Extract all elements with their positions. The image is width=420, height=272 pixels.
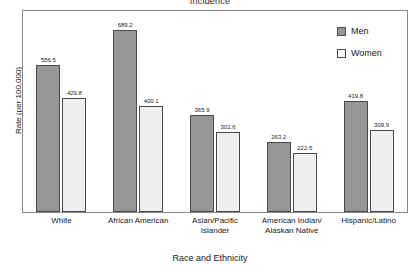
- bar-value-label: 429.8: [53, 90, 95, 96]
- bar-rect: [216, 132, 240, 212]
- bar-men[interactable]: 689.2: [113, 30, 137, 212]
- x-axis-tick-labels: WhiteAfrican AmericanAsian/PacificIsland…: [23, 216, 407, 250]
- bar-rect: [267, 142, 291, 212]
- legend-item-women[interactable]: Women: [337, 48, 382, 58]
- bar-rect: [62, 98, 86, 212]
- bar-men[interactable]: 419.8: [344, 101, 368, 212]
- x-axis-title: Race and Ethnicity: [0, 253, 420, 263]
- bar-women[interactable]: 222.5: [293, 153, 317, 212]
- incidence-bar-chart: Incidence Rate (per 100,000) 556.5429.86…: [0, 0, 420, 272]
- legend-label-women: Women: [351, 48, 382, 58]
- x-tick-label: Asian/PacificIslander: [177, 216, 254, 236]
- legend-label-men: Men: [351, 26, 369, 36]
- bar-women[interactable]: 429.8: [62, 98, 86, 212]
- chart-legend: Men Women: [337, 26, 382, 70]
- x-tick-label: White: [23, 216, 100, 226]
- bar-men[interactable]: 556.5: [36, 65, 60, 212]
- x-tick-label: African American: [100, 216, 177, 226]
- bar-women[interactable]: 400.1: [139, 106, 163, 212]
- bar-rect: [113, 30, 137, 212]
- bar-value-label: 309.9: [361, 122, 403, 128]
- bar-value-label: 556.5: [27, 57, 69, 63]
- bar-women[interactable]: 309.9: [370, 130, 394, 212]
- bar-value-label: 689.2: [104, 22, 146, 28]
- bar-value-label: 302.6: [207, 124, 249, 130]
- bar-rect: [344, 101, 368, 212]
- chart-title: Incidence: [0, 0, 420, 6]
- men-swatch-icon: [337, 27, 346, 36]
- bar-group: 556.5429.8: [23, 11, 100, 212]
- women-swatch-icon: [337, 49, 346, 58]
- x-tick-label: Hispanic/Latino: [330, 216, 407, 226]
- bar-rect: [293, 153, 317, 212]
- bar-rect: [36, 65, 60, 212]
- bar-value-label: 365.9: [181, 107, 223, 113]
- bar-value-label: 263.2: [258, 134, 300, 140]
- bar-value-label: 400.1: [130, 98, 172, 104]
- x-tick-label: American Indian/Alaskan Native: [253, 216, 330, 236]
- bar-group: 365.9302.6: [177, 11, 254, 212]
- bar-value-label: 419.8: [335, 93, 377, 99]
- legend-item-men[interactable]: Men: [337, 26, 382, 36]
- bar-group: 263.2222.5: [253, 11, 330, 212]
- bar-men[interactable]: 263.2: [267, 142, 291, 212]
- bar-group: 689.2400.1: [100, 11, 177, 212]
- bar-rect: [139, 106, 163, 212]
- bar-value-label: 222.5: [284, 145, 326, 151]
- bar-women[interactable]: 302.6: [216, 132, 240, 212]
- bar-rect: [370, 130, 394, 212]
